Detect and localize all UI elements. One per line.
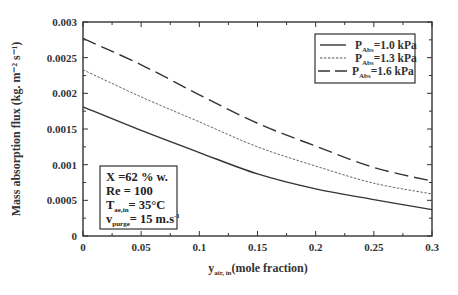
y-tick-label: 0.0015 (47, 123, 78, 135)
y-tick-label: 0.0005 (47, 194, 78, 206)
x-tick-label: 0.2 (309, 241, 323, 253)
line-chart: 00.00050.0010.00150.0020.00250.003 00.05… (0, 0, 458, 295)
x-tick-label: 0 (80, 241, 86, 253)
y-tick-label: 0 (72, 230, 78, 242)
y-axis-title: Mass absorption flux (kg. m⁻² s⁻¹) (9, 42, 23, 217)
y-tick-label: 0.002 (52, 87, 77, 99)
x-axis-title: yair, in(mole fraction) (208, 261, 308, 277)
x-tick-label: 0.25 (364, 241, 384, 253)
x-tick-label: 0.3 (425, 241, 439, 253)
x-tick-label: 0.05 (132, 241, 152, 253)
y-tick-label: 0.0025 (47, 52, 78, 64)
annotation-line-re: Re = 100 (106, 184, 153, 198)
parameters-annotation-box: X =62 % w. Re = 100 Tae,in= 35°C vpurge=… (100, 166, 180, 229)
y-tick-label: 0.001 (52, 159, 77, 171)
x-tick-label: 0.15 (248, 241, 268, 253)
y-tick-label: 0.003 (52, 16, 77, 28)
legend: PAbs=1.0 kPa PAbs=1.3 kPa PAbs=1.6 kPa (315, 34, 417, 83)
annotation-line-x: X =62 % w. (106, 170, 168, 184)
x-tick-label: 0.1 (192, 241, 206, 253)
